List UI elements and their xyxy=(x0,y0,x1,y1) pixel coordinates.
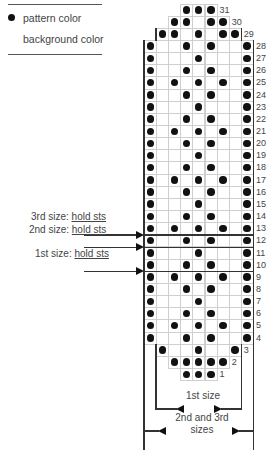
row-number: 31 xyxy=(220,5,230,15)
size-bracket-label-2nd-3rd-line2: sizes xyxy=(160,424,244,435)
pattern-stitch-dot xyxy=(243,285,251,293)
pattern-stitch-dot xyxy=(231,30,239,38)
row29-left-edge xyxy=(155,28,157,41)
pattern-stitch-dot xyxy=(207,91,215,99)
legend-bottom-rule xyxy=(8,54,102,55)
pattern-stitch-dot xyxy=(219,176,227,184)
pattern-stitch-dot xyxy=(207,6,215,14)
row-number: 11 xyxy=(256,248,265,258)
pattern-stitch-dot xyxy=(171,358,179,366)
bracket-1st-right xyxy=(241,344,243,408)
size-bracket-label-2nd-3rd-line1: 2nd and 3rd xyxy=(160,412,244,423)
size-text: 3rd size: xyxy=(31,211,69,222)
row-number: 4 xyxy=(256,333,261,343)
pattern-stitch-dot xyxy=(147,200,155,208)
pattern-stitch-dot xyxy=(183,18,191,26)
pattern-stitch-dot xyxy=(243,298,251,306)
pattern-stitch-dot xyxy=(207,261,215,269)
pattern-stitch-dot xyxy=(219,30,227,38)
legend-label: background color xyxy=(23,33,104,45)
pattern-stitch-dot xyxy=(183,261,191,269)
row-number: 28 xyxy=(256,41,266,51)
hold-line xyxy=(144,271,253,273)
pattern-stitch-dot xyxy=(243,67,251,75)
pattern-stitch-dot xyxy=(243,213,251,221)
row-number: 16 xyxy=(256,187,266,197)
pattern-stitch-dot xyxy=(243,310,251,318)
pattern-stitch-dot xyxy=(183,334,191,342)
row-number: 9 xyxy=(256,272,261,282)
row-number: 21 xyxy=(256,126,266,136)
row-number: 27 xyxy=(256,53,266,63)
pattern-stitch-dot xyxy=(159,346,167,354)
size-bracket-label-1st: 1st size xyxy=(168,390,238,401)
pattern-stitch-dot xyxy=(207,371,215,379)
action-text: hold sts xyxy=(72,211,106,222)
row-number: 17 xyxy=(256,175,266,185)
pattern-stitch-dot xyxy=(231,346,239,354)
pattern-stitch-dot xyxy=(243,42,251,50)
row-number: 7 xyxy=(256,296,261,306)
pattern-stitch-dot xyxy=(243,249,251,257)
hold-label-1st-size: 1st size: hold sts xyxy=(35,248,109,259)
row-number: 12 xyxy=(256,235,266,245)
pattern-stitch-dot xyxy=(147,42,155,50)
pattern-stitch-dot xyxy=(219,358,227,366)
bracket-1st-left xyxy=(155,344,157,408)
size-text: 2nd size: xyxy=(29,224,69,235)
pattern-stitch-dot xyxy=(171,18,179,26)
pattern-stitch-dot xyxy=(243,261,251,269)
pattern-stitch-dot xyxy=(207,334,215,342)
pattern-stitch-dot xyxy=(147,225,155,233)
pattern-stitch-dot xyxy=(243,152,251,160)
pattern-stitch-dot xyxy=(243,334,251,342)
row-number: 3 xyxy=(244,345,249,355)
pattern-stitch-dot xyxy=(147,55,155,63)
pattern-stitch-dot xyxy=(195,249,203,257)
pattern-stitch-dot xyxy=(243,273,251,281)
pattern-stitch-dot xyxy=(171,128,179,136)
bracket-1st-bottom-left xyxy=(155,408,177,410)
pattern-stitch-dot xyxy=(207,18,215,26)
size-text: 1st size: xyxy=(35,248,72,259)
row-number: 20 xyxy=(256,138,266,148)
hold-line xyxy=(144,247,253,249)
legend-item-pattern-color: pattern color xyxy=(8,12,81,24)
pattern-stitch-dot xyxy=(207,213,215,221)
filled-dot-icon xyxy=(8,14,15,21)
pattern-stitch-dot xyxy=(195,6,203,14)
row-number: 18 xyxy=(256,162,266,172)
pattern-stitch-dot xyxy=(207,42,215,50)
pattern-stitch-dot xyxy=(147,334,155,342)
row29-right-edge xyxy=(241,28,243,41)
legend-label: pattern color xyxy=(23,12,81,24)
row-number: 13 xyxy=(256,223,266,233)
row-number: 26 xyxy=(256,65,266,75)
row-number: 24 xyxy=(256,90,266,100)
pattern-stitch-dot xyxy=(171,30,179,38)
pattern-stitch-dot xyxy=(219,225,227,233)
pattern-stitch-dot xyxy=(195,176,203,184)
pattern-stitch-dot xyxy=(219,322,227,330)
pattern-stitch-dot xyxy=(147,188,155,196)
action-text: hold sts xyxy=(72,224,106,235)
row-number: 14 xyxy=(256,211,266,221)
pattern-stitch-dot xyxy=(147,249,155,257)
pattern-stitch-dot xyxy=(147,140,155,148)
pattern-stitch-dot xyxy=(243,128,251,136)
legend-item-background-color: background color xyxy=(8,33,104,45)
pattern-stitch-dot xyxy=(219,18,227,26)
pattern-stitch-dot xyxy=(243,176,251,184)
pattern-stitch-dot xyxy=(147,261,155,269)
pattern-stitch-dot xyxy=(147,298,155,306)
pattern-stitch-dot xyxy=(183,358,191,366)
hold-leader xyxy=(84,271,136,273)
pattern-stitch-dot xyxy=(147,213,155,221)
row-number: 23 xyxy=(256,102,266,112)
pattern-stitch-dot xyxy=(219,128,227,136)
pattern-stitch-dot xyxy=(195,346,203,354)
pattern-stitch-dot xyxy=(207,188,215,196)
arrow-right-icon xyxy=(136,231,144,239)
pattern-stitch-dot xyxy=(147,273,155,281)
arrow-right-icon xyxy=(136,243,144,251)
